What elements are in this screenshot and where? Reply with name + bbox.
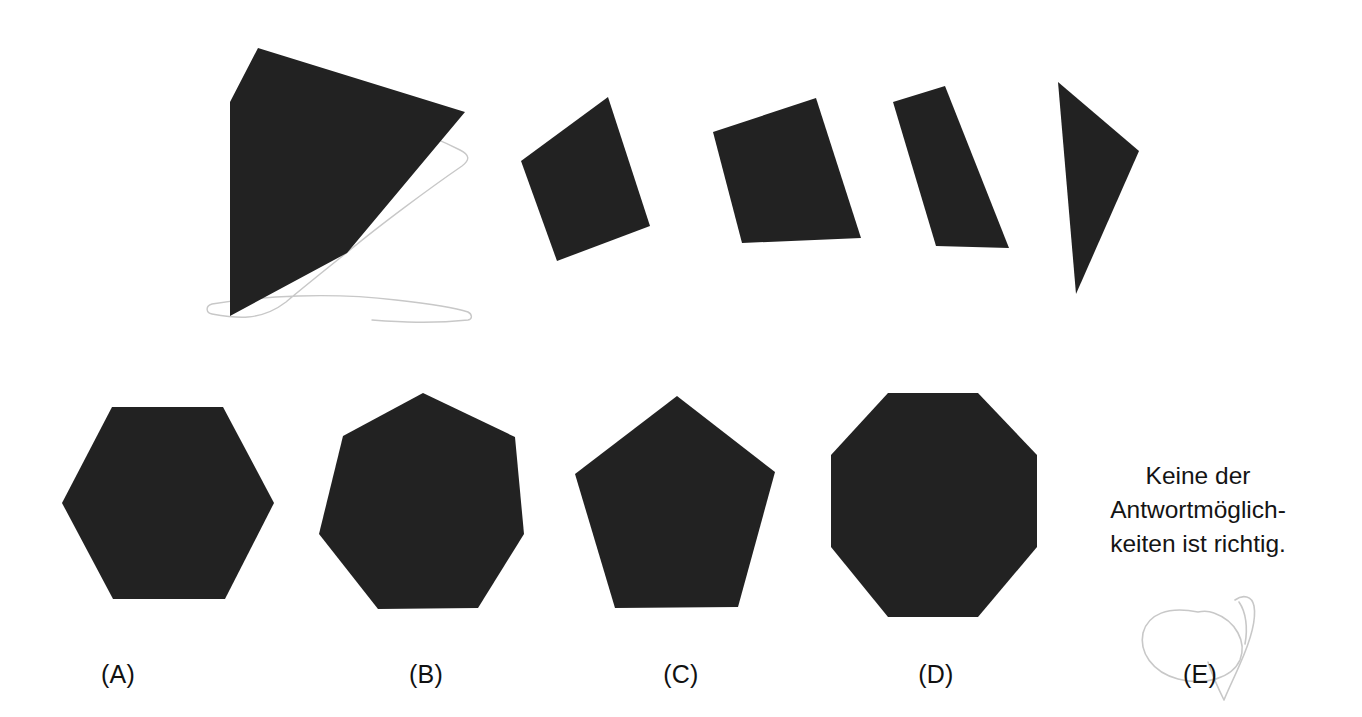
piece-quadrilateral-1 bbox=[521, 97, 650, 261]
figure-canvas bbox=[0, 0, 1362, 717]
piece-main-notched-polygon bbox=[230, 48, 465, 316]
answer-e-line-2: Antwortmöglich- bbox=[1090, 493, 1306, 527]
answer-shape-a-hexagon[interactable] bbox=[62, 407, 274, 599]
option-label-a[interactable]: (A) bbox=[101, 660, 135, 689]
answer-shape-c-pentagon[interactable] bbox=[575, 396, 775, 608]
option-label-c[interactable]: (C) bbox=[663, 660, 698, 689]
puzzle-pieces-row bbox=[230, 48, 1139, 316]
piece-quadrilateral-2 bbox=[713, 98, 861, 243]
piece-quadrilateral-3 bbox=[893, 86, 1009, 248]
answer-shape-d-octagon[interactable] bbox=[831, 393, 1037, 617]
option-label-b[interactable]: (B) bbox=[409, 660, 443, 689]
answer-e-line-3: keiten ist richtig. bbox=[1090, 527, 1306, 561]
answer-option-shapes bbox=[62, 393, 1037, 617]
answer-e-line-1: Keine der bbox=[1090, 459, 1306, 493]
option-label-e[interactable]: (E) bbox=[1183, 660, 1217, 689]
question-page: Keine der Antwortmöglich- keiten ist ric… bbox=[0, 0, 1362, 717]
answer-shape-b-heptagon[interactable] bbox=[319, 393, 524, 609]
option-label-d[interactable]: (D) bbox=[918, 660, 953, 689]
piece-triangle-4 bbox=[1058, 82, 1139, 294]
answer-option-e-text[interactable]: Keine der Antwortmöglich- keiten ist ric… bbox=[1090, 459, 1306, 561]
